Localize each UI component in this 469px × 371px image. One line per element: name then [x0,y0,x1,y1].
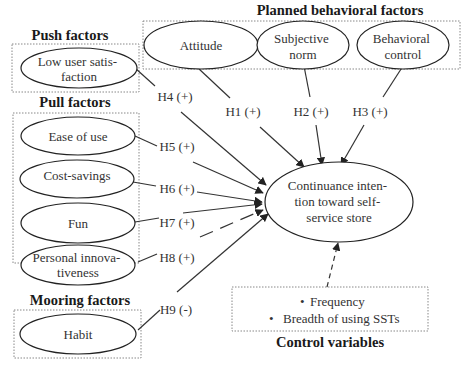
node-attitude: Attitude [144,21,258,69]
node-attitude-label: Attitude [180,38,223,53]
mooring-factors-title: Mooring factors [30,292,131,308]
node-continuance-intention: Continuance inten- tion toward self- ser… [265,162,413,242]
node-behavioral-control: Behavioral control [357,21,449,69]
h5-label: H5 (+) [159,139,194,154]
h4-link-upper [135,68,155,86]
h6-label: H6 (+) [159,181,194,196]
control-variables-list: • Frequency • Breadth of using SSTs [269,294,399,326]
control-item-breadth: Breadth of using SSTs [283,311,399,326]
node-low-user-satisfaction: Low user satis- faction [21,48,137,88]
node-habit-label: Habit [64,327,93,342]
h1-link-upper [198,68,230,98]
node-cost-savings-label: Cost-savings [43,168,110,183]
node-personal-innovativeness: Personal innova- tiveness [21,245,135,285]
h5-link-upper [135,136,157,146]
h7-arrow [183,204,262,213]
h1-label: H1 (+) [225,104,260,119]
node-fun: Fun [21,203,135,243]
h2-arrow [316,125,322,165]
push-factors-title: Push factors [32,27,109,43]
node-fun-label: Fun [68,216,89,231]
h3-link-upper [383,66,403,97]
control-item-frequency: Frequency [310,294,365,309]
node-ease-of-use: Ease of use [21,117,135,155]
h3-label: H3 (+) [352,104,387,119]
research-model-diagram: Planned behavioral factors Push factors … [0,0,469,371]
control-item-bullet: • [300,294,305,309]
h7-label: H7 (+) [159,215,194,230]
h6-arrow [197,192,262,202]
h4-label: H4 (+) [157,89,192,104]
h2-link-upper [304,66,310,97]
h8-label: H8 (+) [159,250,194,265]
h1-arrow [260,127,304,167]
node-subjective-norm: Subjective norm [257,21,349,69]
h2-label: H2 (+) [293,104,328,119]
node-ease-of-use-label: Ease of use [48,129,107,144]
h8-link-upper [138,254,157,262]
pull-factors-title: Pull factors [39,94,111,110]
h9-label: H9 (-) [160,302,192,317]
h3-arrow [341,125,364,165]
planned-behavioral-factors-title: Planned behavioral factors [257,2,424,18]
control-item-bullet: • [269,311,274,326]
h8-arrow [200,210,263,237]
h5-arrow [193,162,263,193]
control-variables-arrow [327,243,338,287]
control-variables-title: Control variables [276,334,384,350]
h6-link-upper [133,182,156,186]
node-cost-savings: Cost-savings [20,160,134,198]
node-habit: Habit [20,314,136,354]
